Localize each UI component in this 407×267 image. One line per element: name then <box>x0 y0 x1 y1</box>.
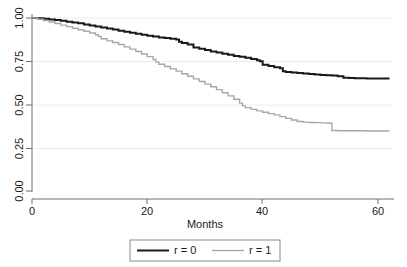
kaplan-meier-chart: 1.00 0.75 0.50 0.25 0.00 0 20 40 60 Mont… <box>0 0 407 267</box>
legend-label-r1: r = 1 <box>249 244 271 256</box>
y-tick-label-0.75: 0.75 <box>13 51 25 72</box>
legend-label-r0: r = 0 <box>174 244 196 256</box>
x-axis-title: Months <box>187 218 224 230</box>
survival-plot-figure: 1.00 0.75 0.50 0.25 0.00 0 20 40 60 Mont… <box>0 0 407 267</box>
x-tick-label-60: 60 <box>372 205 384 217</box>
x-tick-label-0: 0 <box>29 205 35 217</box>
y-tick-label-0.50: 0.50 <box>13 94 25 115</box>
x-tick-label-40: 40 <box>256 205 268 217</box>
x-tick-label-20: 20 <box>141 205 153 217</box>
y-tick-label-0.00: 0.00 <box>13 180 25 201</box>
y-tick-label-1.00: 1.00 <box>13 7 25 28</box>
legend: r = 0 r = 1 <box>130 240 280 261</box>
y-tick-label-0.25: 0.25 <box>13 138 25 159</box>
